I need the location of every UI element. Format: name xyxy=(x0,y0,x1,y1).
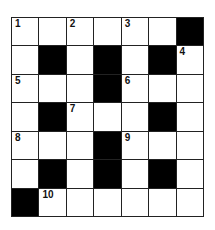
clue-number: 9 xyxy=(125,133,131,143)
block-cell xyxy=(94,46,120,73)
crossword-cell[interactable] xyxy=(94,103,120,130)
crossword-cell[interactable] xyxy=(67,189,93,216)
crossword-cell[interactable]: 8 xyxy=(12,132,38,159)
clue-number: 1 xyxy=(15,19,21,29)
crossword-cell[interactable]: 4 xyxy=(177,46,203,73)
crossword-cell[interactable] xyxy=(12,46,38,73)
crossword-cell[interactable] xyxy=(149,75,175,102)
crossword-cell[interactable]: 1 xyxy=(12,18,38,45)
block-cell xyxy=(39,46,65,73)
block-cell xyxy=(149,46,175,73)
crossword-cell[interactable] xyxy=(177,160,203,187)
crossword-cell[interactable] xyxy=(122,160,148,187)
clue-number: 3 xyxy=(125,19,131,29)
crossword-cell[interactable]: 3 xyxy=(122,18,148,45)
crossword-cell[interactable] xyxy=(122,189,148,216)
crossword-cell[interactable] xyxy=(39,132,65,159)
crossword-cell[interactable] xyxy=(39,18,65,45)
block-cell xyxy=(39,103,65,130)
clue-number: 8 xyxy=(15,133,21,143)
crossword-cell[interactable] xyxy=(39,75,65,102)
block-cell xyxy=(94,132,120,159)
crossword-cell[interactable]: 2 xyxy=(67,18,93,45)
crossword-cell[interactable] xyxy=(177,103,203,130)
clue-number: 5 xyxy=(15,76,21,86)
block-cell xyxy=(149,103,175,130)
block-cell xyxy=(149,160,175,187)
crossword-cell[interactable] xyxy=(122,103,148,130)
crossword-cell[interactable] xyxy=(177,189,203,216)
crossword-cell[interactable] xyxy=(67,160,93,187)
crossword-cell[interactable] xyxy=(177,75,203,102)
block-cell xyxy=(94,75,120,102)
crossword-cell[interactable]: 9 xyxy=(122,132,148,159)
crossword-cell[interactable] xyxy=(94,189,120,216)
crossword-cell[interactable]: 7 xyxy=(67,103,93,130)
block-cell xyxy=(39,160,65,187)
clue-number: 2 xyxy=(70,19,76,29)
crossword-cell[interactable]: 6 xyxy=(122,75,148,102)
crossword-cell[interactable] xyxy=(149,189,175,216)
clue-number: 10 xyxy=(42,190,53,200)
block-cell xyxy=(94,160,120,187)
crossword-cell[interactable]: 5 xyxy=(12,75,38,102)
crossword-cell[interactable] xyxy=(94,18,120,45)
crossword-cell[interactable] xyxy=(12,160,38,187)
crossword-cell[interactable] xyxy=(149,132,175,159)
crossword-cell[interactable] xyxy=(67,75,93,102)
crossword-cell[interactable] xyxy=(177,132,203,159)
crossword-cell[interactable] xyxy=(67,46,93,73)
clue-number: 6 xyxy=(125,76,131,86)
clue-number: 4 xyxy=(180,47,186,57)
crossword-cell[interactable] xyxy=(149,18,175,45)
crossword-cell[interactable]: 10 xyxy=(39,189,65,216)
block-cell xyxy=(177,18,203,45)
clue-number: 7 xyxy=(70,104,76,114)
crossword-cell[interactable] xyxy=(12,103,38,130)
crossword-cell[interactable] xyxy=(122,46,148,73)
crossword-cell[interactable] xyxy=(67,132,93,159)
crossword-grid: 12345678910 xyxy=(11,17,204,217)
block-cell xyxy=(12,189,38,216)
